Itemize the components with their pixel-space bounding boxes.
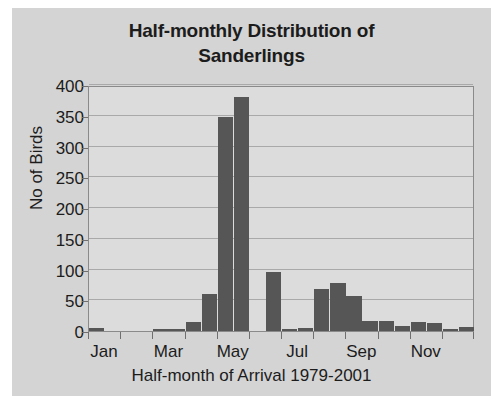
bar-series: [89, 87, 473, 331]
bar: [459, 327, 474, 331]
bar: [266, 272, 281, 331]
x-axis-tick-mark: [249, 332, 250, 339]
x-axis-tick-label: Sep: [331, 342, 391, 362]
x-axis-tick-mark: [88, 332, 89, 339]
plot-wrapper: No of Birds 050100150200250300350400 Jan…: [12, 8, 491, 396]
x-axis-tick-mark: [185, 332, 186, 339]
y-axis-tick-marks: [12, 86, 92, 332]
bar: [282, 329, 297, 331]
bar: [298, 328, 313, 331]
bar: [89, 328, 104, 331]
x-axis-title: Half-month of Arrival 1979-2001: [12, 366, 491, 386]
bar: [330, 283, 345, 331]
bar: [186, 322, 201, 331]
x-axis-tick-mark: [378, 332, 379, 339]
x-axis-tick-mark: [345, 332, 346, 339]
bar: [443, 329, 458, 331]
x-axis-tick-mark: [217, 332, 218, 339]
bar: [314, 289, 329, 331]
bar: [153, 329, 168, 331]
x-axis-tick-label: Nov: [396, 342, 456, 362]
x-axis-tick-label: Jan: [74, 342, 134, 362]
bar: [427, 323, 442, 331]
bar: [411, 322, 426, 331]
gridline: [89, 84, 473, 85]
x-axis-tick-labels: JanMarMayJulSepNov: [88, 342, 474, 366]
x-axis-tick-mark: [313, 332, 314, 339]
bar: [346, 296, 361, 331]
x-axis-tick-label: Mar: [138, 342, 198, 362]
x-axis-tick-mark: [281, 332, 282, 339]
bar: [362, 321, 377, 331]
bar: [202, 294, 217, 331]
x-axis-tick-label: Jul: [267, 342, 327, 362]
x-axis-tick-mark: [473, 332, 474, 339]
x-axis-tick-mark: [442, 332, 443, 339]
plot-area: [88, 86, 474, 332]
bar: [395, 326, 410, 331]
chart-panel: Half-monthly Distribution of Sanderlings…: [12, 8, 491, 396]
bar: [234, 97, 249, 331]
bar: [218, 117, 233, 331]
bar: [379, 321, 394, 331]
x-axis-tick-mark: [152, 332, 153, 339]
x-axis-tick-label: May: [203, 342, 263, 362]
x-axis-tick-mark: [410, 332, 411, 339]
bar: [169, 329, 184, 331]
x-axis-tick-marks: [88, 332, 474, 340]
x-axis-tick-mark: [120, 332, 121, 339]
